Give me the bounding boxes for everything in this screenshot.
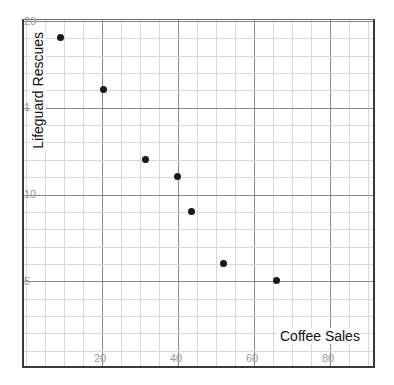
x-axis-title: Coffee Sales <box>278 328 362 344</box>
y-tick-label: 20 <box>24 15 36 27</box>
scatter-chart: 5101520 20406080 Lifeguard Rescues Coffe… <box>0 0 394 385</box>
x-tick-label: 20 <box>94 352 106 364</box>
x-tick-label: 80 <box>322 352 334 364</box>
y-tick-label: 5 <box>24 275 30 287</box>
x-tick-label: 60 <box>246 352 258 364</box>
gridlines <box>24 20 375 368</box>
y-axis-title: Lifeguard Rescues <box>30 30 46 151</box>
y-tick-label: 10 <box>24 188 36 200</box>
plot-area <box>22 19 375 368</box>
x-tick-label: 40 <box>170 352 182 364</box>
